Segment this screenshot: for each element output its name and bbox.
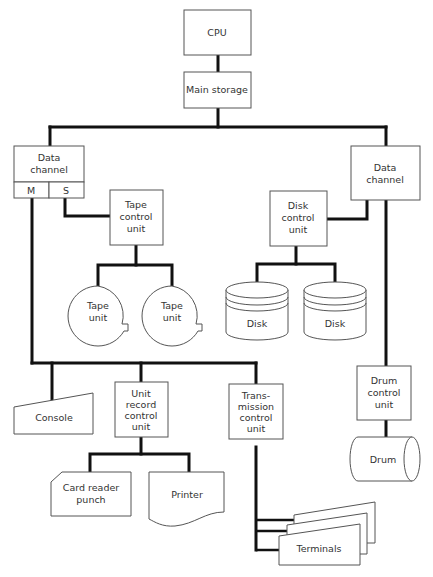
unit-record-line2: record	[126, 399, 156, 410]
drum-control-line3: unit	[375, 399, 394, 410]
disk-2-node: Disk	[304, 282, 366, 340]
data-channel-right-line1: Data	[374, 162, 397, 173]
system-diagram: CPU Main storage Data channel M S Data c…	[0, 0, 433, 577]
drum-control-line2: control	[368, 387, 401, 398]
unit-record-line4: unit	[132, 421, 151, 432]
transmission-control-node: Trans- mission control unit	[229, 384, 283, 439]
transmission-line1: Trans-	[241, 390, 271, 401]
transmission-line3: control	[240, 412, 273, 423]
tape-control-line1: Tape	[124, 199, 147, 210]
main-storage-node: Main storage	[184, 72, 251, 108]
port-s-label: S	[63, 185, 69, 196]
data-channel-right-line2: channel	[366, 174, 404, 185]
data-channel-left-node: Data channel M S	[14, 146, 84, 198]
drum-node: Drum	[350, 437, 420, 481]
terminals-label: Terminals	[295, 543, 341, 554]
tape-unit-1-node: Tape unit	[68, 286, 128, 346]
data-channel-right-node: Data channel	[351, 146, 420, 200]
tape-control-line2: control	[120, 211, 153, 222]
disk-1-node: Disk	[226, 282, 288, 340]
tape-unit-2-line2: unit	[163, 312, 182, 323]
cpu-node: CPU	[184, 10, 251, 55]
data-channel-left-line2: channel	[30, 164, 68, 175]
drum-control-unit-node: Drum control unit	[357, 366, 411, 420]
tape-unit-1-line2: unit	[89, 312, 108, 323]
unit-record-control-node: Unit record control unit	[115, 382, 168, 437]
port-m-label: M	[27, 185, 35, 196]
cpu-label: CPU	[207, 27, 226, 38]
terminals-node: Terminals	[279, 502, 375, 565]
disk-2-label: Disk	[325, 318, 346, 329]
data-channel-left-line1: Data	[38, 152, 61, 163]
card-reader-punch-node: Card reader punch	[51, 472, 131, 516]
main-storage-label: Main storage	[186, 84, 248, 95]
card-reader-line1: Card reader	[63, 482, 119, 493]
unit-record-line1: Unit	[131, 388, 151, 399]
tape-control-unit-node: Tape control unit	[110, 190, 163, 245]
disk-control-line1: Disk	[288, 200, 309, 211]
printer-node: Printer	[149, 472, 224, 526]
transmission-line4: unit	[247, 423, 266, 434]
disk-control-unit-node: Disk control unit	[270, 191, 327, 246]
disk-1-label: Disk	[247, 318, 268, 329]
transmission-line2: mission	[238, 401, 274, 412]
tape-unit-2-line1: Tape	[160, 300, 183, 311]
drum-label: Drum	[370, 454, 397, 465]
tape-control-line3: unit	[127, 223, 146, 234]
console-label: Console	[35, 412, 73, 423]
drum-control-line1: Drum	[371, 375, 398, 386]
tape-unit-1-line1: Tape	[86, 300, 109, 311]
unit-record-line3: control	[125, 410, 158, 421]
card-reader-line2: punch	[76, 494, 105, 505]
disk-control-line2: control	[282, 212, 315, 223]
tape-unit-2-node: Tape unit	[142, 286, 202, 346]
disk-control-line3: unit	[289, 224, 308, 235]
printer-label: Printer	[171, 489, 203, 500]
